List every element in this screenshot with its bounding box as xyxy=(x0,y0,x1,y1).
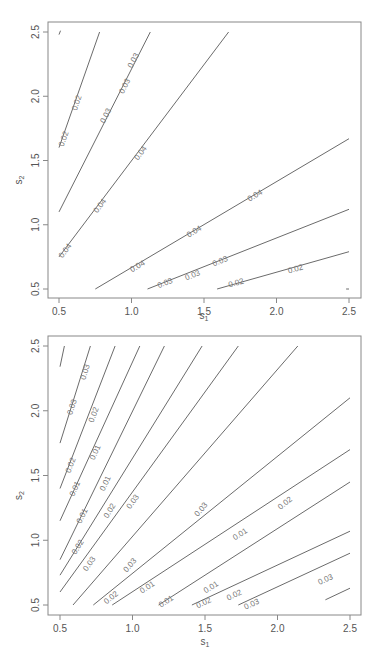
contour-label: 0.03 xyxy=(117,77,132,95)
contour-label: 0.02 xyxy=(287,262,305,275)
contour-label: 0.01 xyxy=(75,506,90,524)
contour-label: 0.03 xyxy=(65,398,78,416)
y-tick-label: 1.0 xyxy=(30,533,41,547)
y-tick-label: 1.5 xyxy=(30,153,41,167)
x-tick-label: 2.5 xyxy=(342,306,356,317)
contour-label: 0.03 xyxy=(125,492,142,510)
x-tick-label: 0.5 xyxy=(52,306,66,317)
contour-line xyxy=(60,346,64,367)
contour-panel-2: 0.51.01.52.02.50.51.01.52.02.5s1s20.030.… xyxy=(13,336,361,648)
contour-label: 0.04 xyxy=(132,144,149,162)
contour-label: 0.02 xyxy=(87,405,101,423)
y-tick-label: 1.5 xyxy=(30,468,41,482)
y-axis-label: s2 xyxy=(13,491,25,500)
contour-line xyxy=(60,346,238,592)
x-tick-label: 1.0 xyxy=(126,623,140,634)
contour-label: 0.03 xyxy=(79,363,92,381)
y-tick-label: 2.0 xyxy=(30,89,41,103)
contour-label: 0.03 xyxy=(243,597,261,612)
contour-line xyxy=(59,32,229,257)
contour-label: 0.01 xyxy=(68,479,83,497)
contour-label: 0.03 xyxy=(184,268,202,282)
contour-label: 0.02 xyxy=(70,93,84,111)
contour-label: 0.03 xyxy=(81,554,98,572)
y-tick-label: 0.5 xyxy=(30,282,41,296)
contour-line xyxy=(325,588,350,600)
contour-label: 0.03 xyxy=(211,254,229,268)
contour-figure: 0.51.01.52.02.50.51.01.52.02.5s1s20.020.… xyxy=(0,0,378,666)
contour-label: 0.04 xyxy=(185,223,203,239)
contour-label: 0.04 xyxy=(92,196,109,214)
x-tick-label: 2.0 xyxy=(270,306,284,317)
contour-line xyxy=(59,31,61,35)
y-tick-label: 2.5 xyxy=(30,339,41,353)
x-tick-label: 1.0 xyxy=(125,306,139,317)
contour-label: 0.02 xyxy=(195,595,213,610)
contour-line xyxy=(60,346,90,443)
y-axis-label: s2 xyxy=(13,175,25,184)
contour-label: 0.02 xyxy=(64,456,78,474)
x-tick-label: 2.5 xyxy=(343,623,357,634)
contour-line xyxy=(59,32,100,148)
contour-label: 0.04 xyxy=(57,241,74,259)
contour-label: 0.02 xyxy=(57,129,71,147)
contour-label: 0.02 xyxy=(102,589,120,606)
contour-label: 0.03 xyxy=(317,572,335,587)
contour-label: 0.02 xyxy=(227,276,245,289)
x-axis-label: s1 xyxy=(201,636,210,648)
contour-label: 0.02 xyxy=(225,587,243,602)
contour-line xyxy=(159,482,350,605)
contour-label: 0.03 xyxy=(121,556,138,574)
contour-label: 0.03 xyxy=(193,500,210,518)
contour-panel-1: 0.51.01.52.02.50.51.01.52.02.5s1s20.020.… xyxy=(13,22,361,322)
y-tick-label: 0.5 xyxy=(30,598,41,612)
x-tick-label: 0.5 xyxy=(53,623,67,634)
y-tick-label: 2.0 xyxy=(30,403,41,417)
contour-line xyxy=(60,346,164,560)
contour-label: 0.02 xyxy=(276,494,294,511)
contour-label: 0.02 xyxy=(70,538,86,556)
plot-box xyxy=(48,336,361,615)
contour-label: 0.03 xyxy=(156,276,174,290)
x-tick-label: 1.5 xyxy=(198,623,212,634)
contour-line xyxy=(148,209,350,289)
y-tick-label: 2.5 xyxy=(30,25,41,39)
y-tick-label: 1.0 xyxy=(30,217,41,231)
contour-label: 0.01 xyxy=(231,526,249,542)
contour-label: 0.01 xyxy=(138,579,156,595)
x-tick-label: 2.0 xyxy=(271,623,285,634)
contour-label: 0.01 xyxy=(88,443,103,461)
